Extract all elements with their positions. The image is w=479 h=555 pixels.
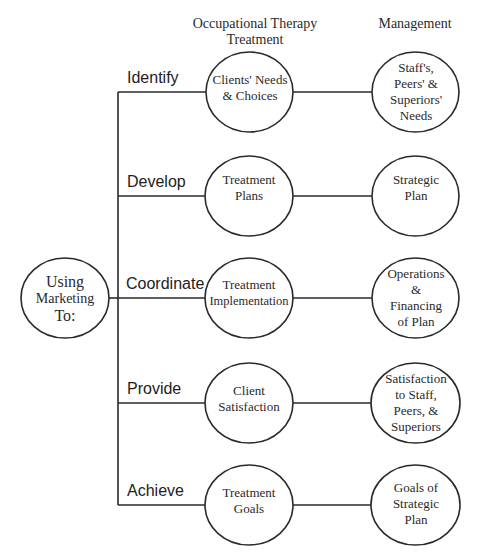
verb-label-achieve: Achieve [127, 482, 184, 500]
text-line: of Plan [397, 314, 434, 330]
text-line: Treatment [223, 277, 276, 293]
text-line: Satisfaction [385, 371, 446, 387]
text-line: Financing [390, 298, 442, 314]
text-line: Goals [234, 501, 264, 517]
root-line-3: To: [54, 307, 75, 324]
verb-label-coordinate: Coordinate [126, 275, 204, 293]
treatment-node-label-achieve: Treatment Goals [205, 483, 293, 519]
text-line: Staff's, [398, 60, 434, 76]
text-line: & Choices [222, 88, 277, 104]
text-line: Peers' & [394, 76, 438, 92]
text-line: Peers, & [394, 403, 439, 419]
text-line: Clients' Needs [213, 72, 288, 88]
management-node-label-provide: Satisfaction to Staff, Peers, & Superior… [371, 371, 461, 435]
text-line: Plans [235, 188, 263, 204]
text-line: Superiors' [390, 92, 442, 108]
text-line: Goals of [394, 480, 438, 496]
text-line: Implementation [209, 293, 288, 309]
verb-label-provide: Provide [127, 380, 181, 398]
treatment-node-label-provide: Client Satisfaction [205, 381, 293, 417]
header-treatment: Occupational Therapy Treatment [190, 16, 320, 48]
text-line: Client [233, 383, 265, 399]
text-line: Needs [400, 108, 433, 124]
text-line: Strategic [393, 496, 439, 512]
root-line-2: Marketing [36, 290, 94, 307]
root-node-label: Using Marketing To: [21, 262, 109, 334]
management-node-label-identify: Staff's, Peers' & Superiors' Needs [372, 60, 460, 124]
text-line: Satisfaction [218, 399, 279, 415]
treatment-node-label-develop: Treatment Plans [205, 168, 293, 208]
header-management: Management [365, 16, 465, 32]
text-line: Plan [404, 512, 427, 528]
text-line: Treatment [223, 172, 276, 188]
text-line: Operations [387, 266, 444, 282]
treatment-node-label-coordinate: Treatment Implementation [205, 275, 293, 311]
management-node-label-coordinate: Operations & Financing of Plan [372, 266, 460, 330]
text-line: Treatment [223, 485, 276, 501]
root-line-1: Using [46, 273, 84, 290]
text-line: Superiors [391, 419, 441, 435]
treatment-node-label-identify: Clients' Needs & Choices [206, 60, 294, 116]
text-line: Strategic [393, 172, 439, 188]
text-line: to Staff, [395, 387, 437, 403]
text-line: Plan [404, 188, 427, 204]
text-line: & [411, 282, 421, 298]
verb-label-identify: Identify [127, 69, 179, 87]
verb-label-develop: Develop [127, 173, 186, 191]
management-node-label-develop: Strategic Plan [372, 170, 460, 206]
management-node-label-achieve: Goals of Strategic Plan [371, 479, 461, 529]
